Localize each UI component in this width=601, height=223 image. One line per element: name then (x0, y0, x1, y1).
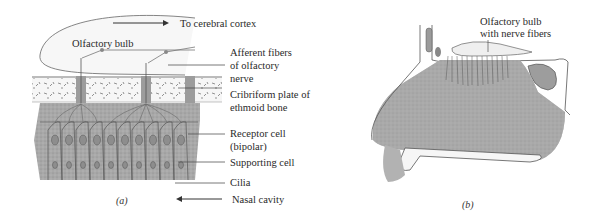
label-afferent-fibers-2: of olfactory (230, 60, 279, 71)
label-olfactory-bulb-nerve-fibers-2: with nerve fibers (480, 28, 551, 39)
label-cilia: Cilia (230, 177, 250, 188)
label-olfactory-bulb: Olfactory bulb (72, 38, 134, 49)
caption-panel-a: (a) (116, 195, 128, 206)
label-cribriform-2: ethmoid bone (230, 102, 287, 113)
label-to-cerebral-cortex: To cerebral cortex (180, 18, 256, 29)
label-receptor-cell-1: Receptor cell (230, 128, 286, 139)
label-receptor-cell-2: (bipolar) (230, 141, 267, 152)
label-afferent-fibers-1: Afferent fibers (230, 47, 292, 58)
caption-panel-b: (b) (462, 199, 474, 210)
label-supporting-cell: Supporting cell (230, 157, 294, 168)
label-nasal-cavity: Nasal cavity (232, 194, 284, 205)
label-olfactory-bulb-nerve-fibers-1: Olfactory bulb (480, 16, 542, 27)
label-afferent-fibers-3: nerve (230, 73, 253, 84)
label-cribriform-1: Cribriform plate of (230, 89, 310, 100)
